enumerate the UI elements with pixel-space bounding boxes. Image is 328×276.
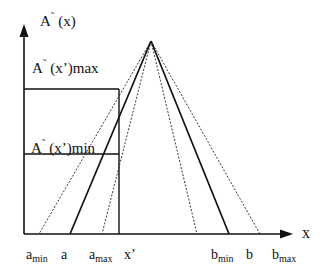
y-axis-arrow-icon	[20, 24, 29, 37]
a-max-dashed-line	[102, 41, 151, 234]
y-axis-label: A˜ (x)	[40, 10, 76, 30]
max-level-label: A˜ (x’)max	[32, 57, 99, 77]
tick-b-min: bmin	[211, 247, 234, 264]
tick-b-max: bmax	[272, 247, 296, 264]
tick-a: a	[61, 247, 68, 262]
x-axis	[24, 230, 293, 239]
tick-b: b	[246, 247, 253, 262]
x-axis-arrow-icon	[280, 230, 293, 239]
x-axis-label: x	[302, 224, 310, 241]
y-axis	[20, 24, 29, 234]
b-max-dashed-line	[151, 41, 260, 234]
tick-x-prime: x’	[124, 247, 136, 262]
membership-diagram: A˜ (x) A˜ (x’)max A˜ (x’)min x amin a am…	[0, 0, 328, 276]
min-level-label: A˜ (x’)min	[31, 137, 96, 157]
tick-a-min: amin	[26, 247, 48, 264]
tick-a-max: amax	[89, 247, 112, 264]
b-solid-line	[151, 41, 229, 234]
